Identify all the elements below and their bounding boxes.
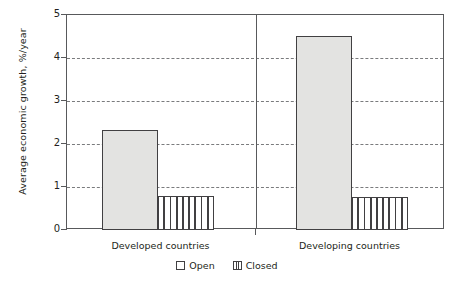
y-axis-title: Average economic growth, %/year [17,12,28,212]
legend-swatch-open-icon [176,261,185,270]
y-tick-label-2: 2 [38,138,60,148]
legend-label-closed: Closed [246,260,278,271]
y-tick-label-1: 1 [38,181,60,191]
bar-chart: Average economic growth, %/year 5 4 3 2 … [0,0,454,282]
legend-item-open: Open [176,260,214,271]
y-tick-label-5: 5 [38,9,60,19]
plot-area [66,14,444,229]
gridline-3 [67,101,443,102]
bar-developing-open [296,36,352,230]
legend-item-closed: Closed [233,260,278,271]
y-tick-label-3: 3 [38,95,60,105]
legend-label-open: Open [189,260,214,271]
gridline-4 [67,58,443,59]
x-tick-mark-divider [255,229,256,235]
legend-swatch-closed-icon [233,261,242,270]
bar-developing-closed [352,197,408,231]
y-tick-label-0: 0 [38,224,60,234]
y-tick-mark-0 [61,229,67,230]
bar-developed-open [102,130,158,230]
bar-developed-closed [158,196,214,230]
x-label-developed: Developed countries [66,240,255,251]
y-tick-label-4: 4 [38,52,60,62]
x-label-developing: Developing countries [255,240,444,251]
legend: Open Closed [0,260,454,271]
category-divider [256,15,257,228]
